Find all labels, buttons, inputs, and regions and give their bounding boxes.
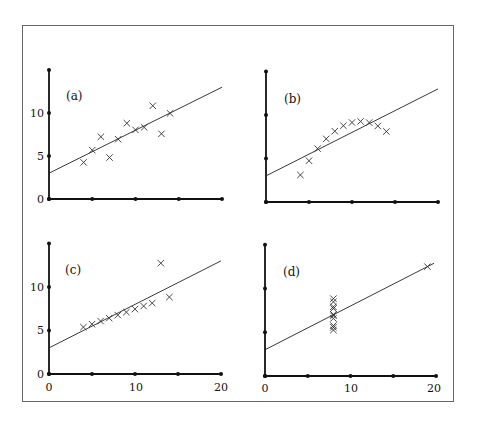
x-tick-mark xyxy=(391,374,395,378)
y-tick-mark xyxy=(47,329,51,333)
panel-d-xtick-0: 0 xyxy=(262,382,269,395)
data-point-x-marker xyxy=(330,311,336,317)
panel-c-xtick-10: 10 xyxy=(129,381,143,394)
x-tick-mark xyxy=(133,372,137,376)
data-point-x-marker xyxy=(424,263,430,269)
x-tick-mark xyxy=(434,374,438,378)
panel-d-xtick-20: 20 xyxy=(427,382,441,395)
data-point-x-marker xyxy=(323,136,329,142)
panel-d-label: (d) xyxy=(283,265,300,279)
x-tick-mark xyxy=(307,200,311,204)
data-point-x-marker xyxy=(80,324,86,330)
y-tick-mark xyxy=(264,113,268,117)
data-point-x-marker xyxy=(297,172,303,178)
panel-b xyxy=(264,70,440,205)
data-point-x-marker xyxy=(383,128,389,134)
data-point-x-marker xyxy=(306,158,312,164)
x-tick-mark xyxy=(393,200,397,204)
panel-c-ytick-5: 5 xyxy=(37,324,44,337)
anscombe-quartet-chart: (a) (b) (c) (d) 10 5 0 10 5 0 0 10 20 0 … xyxy=(0,0,478,421)
data-point-x-marker xyxy=(123,309,129,315)
data-point-x-marker xyxy=(98,134,104,140)
panel-c-label: (c) xyxy=(65,263,81,277)
panel-a-ytick-0: 0 xyxy=(37,193,44,206)
data-point-x-marker xyxy=(375,123,381,129)
x-tick-mark xyxy=(306,374,310,378)
panel-a xyxy=(47,68,224,201)
x-tick-mark xyxy=(436,200,440,204)
x-tick-mark xyxy=(90,197,94,201)
x-tick-mark xyxy=(219,372,223,376)
panel-c-ytick-0: 0 xyxy=(37,368,44,381)
data-point-x-marker xyxy=(158,260,164,266)
y-tick-mark xyxy=(263,243,267,247)
data-point-x-marker xyxy=(330,295,336,301)
y-tick-mark xyxy=(47,68,51,72)
x-tick-mark xyxy=(47,372,51,376)
panel-c-xtick-20: 20 xyxy=(214,381,228,394)
y-tick-mark xyxy=(263,287,267,291)
data-point-x-marker xyxy=(132,306,138,312)
panel-d xyxy=(263,243,438,378)
data-point-x-marker xyxy=(106,154,112,160)
panel-c-ytick-10: 10 xyxy=(30,281,44,294)
y-tick-mark xyxy=(47,154,51,158)
data-point-x-marker xyxy=(115,136,121,142)
y-tick-mark xyxy=(264,70,268,74)
x-tick-mark xyxy=(220,197,224,201)
x-tick-mark xyxy=(90,372,94,376)
data-point-x-marker xyxy=(357,118,363,124)
x-tick-mark xyxy=(264,200,268,204)
data-point-x-marker xyxy=(149,300,155,306)
data-point-x-marker xyxy=(166,294,172,300)
x-tick-mark xyxy=(134,197,138,201)
data-point-x-marker xyxy=(167,110,173,116)
panel-c xyxy=(47,242,223,377)
panel-a-label: (a) xyxy=(66,89,83,103)
x-tick-mark xyxy=(177,197,181,201)
data-point-x-marker xyxy=(132,127,138,133)
x-tick-mark xyxy=(263,374,267,378)
x-tick-mark xyxy=(350,200,354,204)
panel-d-xtick-10: 10 xyxy=(344,382,358,395)
data-point-x-marker xyxy=(150,103,156,109)
y-tick-mark xyxy=(264,157,268,161)
data-point-x-marker xyxy=(80,159,86,165)
panel-a-ytick-10: 10 xyxy=(30,107,44,120)
y-tick-mark xyxy=(47,111,51,115)
y-tick-mark xyxy=(263,330,267,334)
x-tick-mark xyxy=(349,374,353,378)
data-point-x-marker xyxy=(140,303,146,309)
x-tick-mark xyxy=(47,197,51,201)
y-tick-mark xyxy=(47,242,51,246)
panel-c-xtick-0: 0 xyxy=(46,381,53,394)
data-point-x-marker xyxy=(332,128,338,134)
panel-b-label: (b) xyxy=(284,92,301,106)
x-tick-mark xyxy=(176,372,180,376)
data-point-x-marker xyxy=(340,123,346,129)
panel-a-ytick-5: 5 xyxy=(37,150,44,163)
y-tick-mark xyxy=(47,285,51,289)
data-point-x-marker xyxy=(124,120,130,126)
data-point-x-marker xyxy=(158,131,164,137)
data-point-x-marker xyxy=(349,119,355,125)
